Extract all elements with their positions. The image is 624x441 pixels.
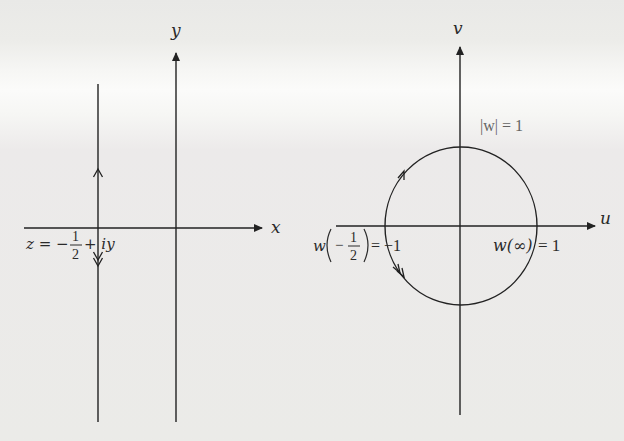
line-label-frac-den: 2 — [72, 247, 79, 262]
line-label-suffix: + iy — [84, 235, 115, 253]
point-left-func: w — [313, 237, 326, 255]
w-plane: u v |w| = 1 w − 1 2 = −1 w(∞) = 1 — [313, 18, 611, 415]
left-paren — [327, 229, 331, 262]
figure-page: x y z = − 1 2 + iy u — [0, 0, 624, 441]
point-left-label: w − 1 2 = −1 — [313, 229, 401, 263]
point-right-func: w(∞) — [493, 236, 533, 255]
y-axis-label: y — [170, 20, 181, 40]
u-axis-label: u — [600, 208, 611, 228]
v-axis-label: v — [453, 18, 463, 38]
point-left-sign: − — [335, 237, 343, 253]
line-label: z = − 1 2 + iy — [25, 229, 115, 262]
mapping-diagram: x y z = − 1 2 + iy u — [0, 0, 624, 441]
point-left-equals: = −1 — [371, 237, 401, 254]
point-left-frac-den: 2 — [350, 248, 357, 263]
point-right-equals: = 1 — [538, 236, 560, 255]
x-axis-label: x — [271, 217, 281, 237]
circle-label: |w| = 1 — [480, 117, 523, 135]
line-label-prefix: z = − — [25, 235, 69, 253]
right-paren — [364, 229, 368, 262]
point-left-frac-num: 1 — [350, 230, 357, 245]
point-right-label: w(∞) = 1 — [493, 236, 560, 255]
z-plane: x y z = − 1 2 + iy — [24, 20, 281, 422]
line-label-frac-num: 1 — [72, 229, 79, 244]
